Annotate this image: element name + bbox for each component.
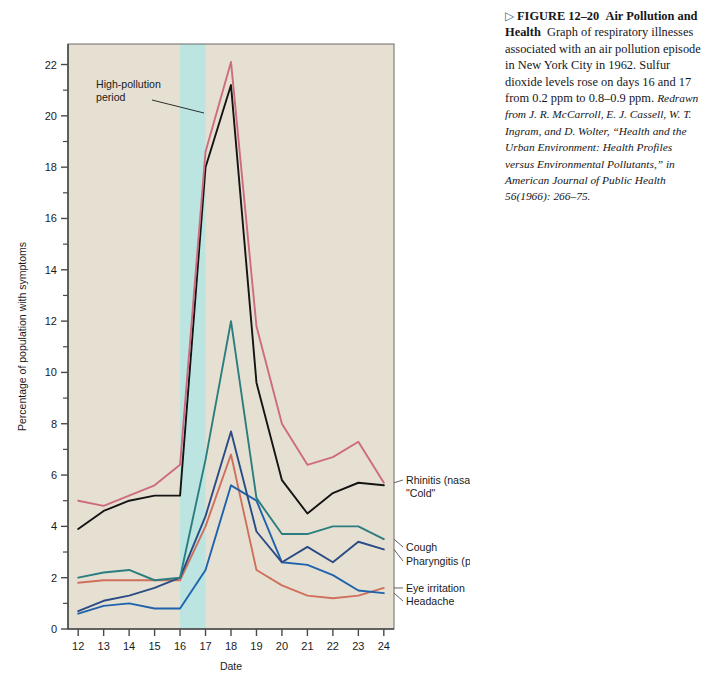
series-label-rhinitis: Rhinitis (nasal infection) — [406, 474, 470, 486]
x-tick-label: 18 — [225, 640, 237, 652]
caption-figure-number: FIGURE 12–20 — [517, 9, 599, 23]
x-tick-label: 19 — [250, 640, 262, 652]
x-tick-label: 13 — [98, 640, 110, 652]
x-tick-label: 20 — [276, 640, 288, 652]
x-tick-label: 23 — [352, 640, 364, 652]
y-tick-label: 18 — [45, 161, 57, 173]
plot-background — [68, 44, 394, 629]
x-tick-label: 22 — [327, 640, 339, 652]
series-label-rhinitis-line2: "Cold" — [406, 487, 436, 499]
y-axis-title: Percentage of population with symptoms — [16, 242, 28, 431]
figure-root: 0246810121416182022121314151617181920212… — [0, 0, 709, 680]
leader-line-cough — [394, 539, 403, 547]
y-tick-label: 22 — [45, 59, 57, 71]
x-tick-label: 16 — [174, 640, 186, 652]
annotation-line2: period — [96, 91, 126, 103]
y-tick-label: 2 — [51, 572, 57, 584]
x-tick-label: 24 — [378, 640, 390, 652]
series-label-headache: Headache — [406, 595, 454, 607]
series-label-cough: Cough — [406, 541, 437, 553]
x-tick-label: 17 — [199, 640, 211, 652]
leader-line-headache — [394, 593, 403, 601]
x-axis-title: Date — [220, 660, 242, 672]
y-tick-label: 12 — [45, 315, 57, 327]
y-tick-label: 16 — [45, 212, 57, 224]
y-tick-label: 10 — [45, 366, 57, 378]
x-tick-label: 12 — [72, 640, 84, 652]
y-tick-label: 4 — [51, 520, 57, 532]
x-tick-label: 14 — [123, 640, 135, 652]
leader-line-rhinitis — [394, 480, 403, 483]
line-chart-svg: 0246810121416182022121314151617181920212… — [0, 0, 470, 680]
y-tick-label: 8 — [51, 418, 57, 430]
y-tick-label: 6 — [51, 469, 57, 481]
series-label-eye-irritation: Eye irritation — [406, 582, 465, 594]
series-label-pharyngitis: Pharyngitis (pharyngeal infection) — [406, 555, 470, 567]
chart-panel: 0246810121416182022121314151617181920212… — [0, 0, 470, 680]
caption-marker-icon: ▷ — [505, 9, 514, 23]
x-tick-label: 21 — [301, 640, 313, 652]
caption-source: Redrawn from J. R. McCarroll, E. J. Cass… — [505, 92, 698, 202]
y-tick-label: 0 — [51, 623, 57, 635]
leader-line-pharyngitis — [394, 549, 403, 561]
y-tick-label: 14 — [45, 264, 57, 276]
x-tick-label: 15 — [148, 640, 160, 652]
figure-caption: ▷FIGURE 12–20 Air Pollution and Health G… — [505, 8, 701, 205]
y-tick-label: 20 — [45, 110, 57, 122]
annotation-line1: High-pollution — [96, 78, 161, 90]
